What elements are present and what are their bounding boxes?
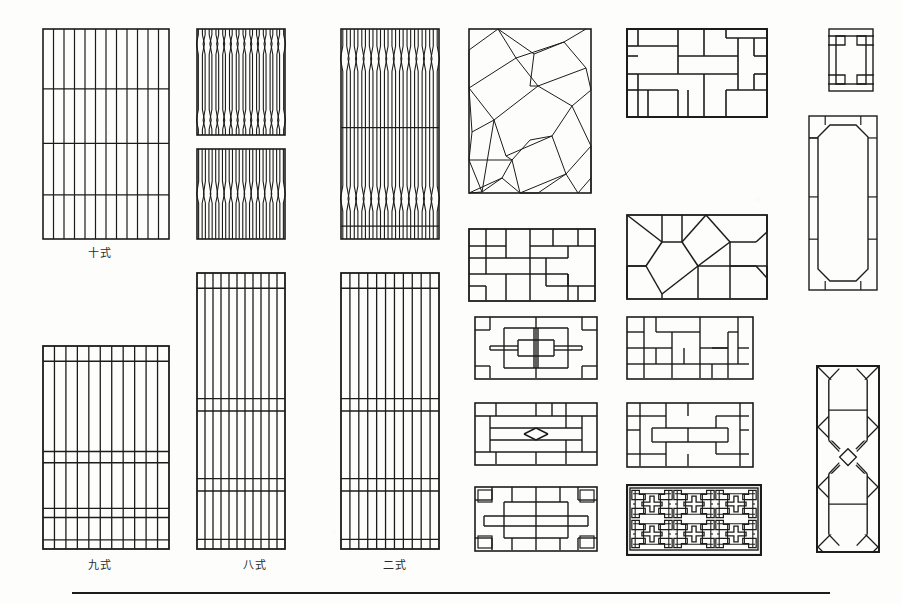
pointed-bulge-lattice-upper (340, 28, 440, 240)
figure-caption: 九式 (60, 556, 140, 572)
vertical-mullion-panel-style-2 (340, 272, 440, 550)
lattice-pattern-plate: 十式九式八式二式 (0, 0, 902, 604)
chamfered-rectangle-tall-panel (808, 115, 878, 291)
gong-character-brick-lattice (626, 28, 768, 118)
lens-bulge-lattice-lower (196, 148, 286, 240)
ice-crack-lattice (468, 28, 592, 194)
vertical-mullion-panel-style-9 (42, 345, 170, 550)
fret-lattice-interlock (626, 316, 754, 380)
wan-character-maze-lattice (626, 484, 762, 556)
vertical-mullion-panel-style-8 (196, 272, 286, 550)
corner-bracket-panel-small (828, 28, 874, 92)
vertical-mullion-panel-style-10 (42, 28, 170, 240)
nested-rectangle-fret-lattice (626, 402, 754, 468)
cross-brick-lattice (468, 228, 596, 302)
figure-caption: 十式 (60, 244, 140, 260)
diagonal-lattice-with-h-motif (816, 365, 880, 553)
bowtie-brick-lattice (474, 402, 598, 466)
fret-lattice-symmetric (474, 316, 598, 380)
polygon-facet-lattice (626, 214, 768, 300)
figure-caption: 八式 (215, 556, 295, 572)
lens-bulge-lattice-upper (196, 28, 286, 136)
figure-caption: 二式 (355, 556, 435, 572)
footer-rule (72, 592, 830, 594)
overlapping-bar-lattice (474, 486, 598, 552)
